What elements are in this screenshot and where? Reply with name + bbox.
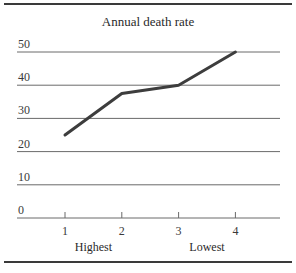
y-tick-label: 30 bbox=[18, 103, 30, 117]
x-tick-label: 2 bbox=[119, 224, 125, 238]
x-annotation-lowest: Lowest bbox=[189, 240, 225, 254]
bottom-rule bbox=[4, 261, 292, 263]
y-tick-label: 10 bbox=[18, 170, 30, 184]
y-axis-tick-labels: 01020304050 bbox=[18, 37, 30, 217]
y-tick-label: 0 bbox=[18, 203, 24, 217]
y-tick-label: 20 bbox=[18, 137, 30, 151]
x-axis-ticks: 1234 bbox=[62, 212, 238, 238]
x-tick-label: 1 bbox=[62, 224, 68, 238]
x-tick-label: 3 bbox=[176, 224, 182, 238]
x-axis-annotations: HighestLowest bbox=[75, 240, 226, 254]
y-tick-label: 40 bbox=[18, 70, 30, 84]
x-tick-label: 4 bbox=[232, 224, 238, 238]
line-chart: 01020304050 1234 HighestLowest bbox=[0, 0, 296, 273]
data-line bbox=[65, 52, 235, 135]
y-tick-label: 50 bbox=[18, 37, 30, 51]
x-annotation-highest: Highest bbox=[75, 240, 113, 254]
gridlines bbox=[17, 52, 280, 218]
